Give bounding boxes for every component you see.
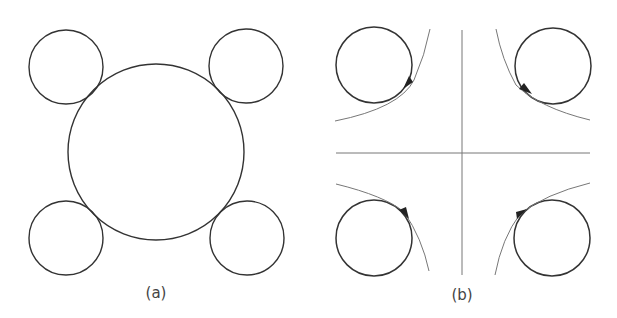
circle-top-right (515, 28, 591, 104)
panel-a (29, 29, 284, 275)
small-circle-top-left (29, 30, 103, 104)
circle-bottom-right (514, 200, 590, 276)
diagram-canvas (0, 0, 617, 318)
panel-a-label: (a) (146, 284, 167, 302)
panel-b-label: (b) (451, 286, 472, 304)
small-circle-bottom-left (29, 201, 103, 275)
panel-b (335, 27, 591, 276)
hyperbola-bottom-left (336, 184, 429, 271)
hyperbola-bottom-right (495, 183, 590, 275)
arrow-icon-top-left (403, 76, 413, 89)
hyperbola-top-left (335, 29, 430, 121)
small-circle-top-right (209, 29, 283, 103)
hyperbola-top-right (496, 29, 590, 120)
circle-top-left (336, 27, 412, 103)
arrow-icon-bottom-right (516, 209, 527, 219)
small-circle-bottom-right (210, 201, 284, 275)
